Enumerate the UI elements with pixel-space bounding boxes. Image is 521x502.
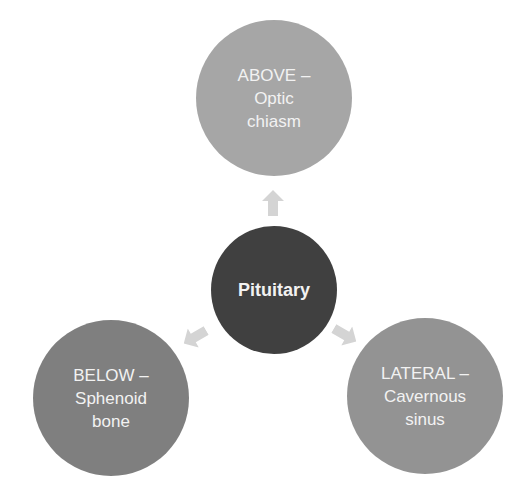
node-lateral-line-1: LATERAL – <box>381 362 469 385</box>
node-above-label: ABOVE – Optic chiasm <box>238 64 311 133</box>
node-lateral-line-2: Cavernous <box>381 385 469 408</box>
node-below-label: BELOW – Sphenoid bone <box>73 364 149 433</box>
arrow-down-left-icon <box>178 321 212 353</box>
node-lateral-line-3: sinus <box>381 408 469 431</box>
node-above-line-1: ABOVE – <box>238 64 311 87</box>
node-below-line-1: BELOW – <box>73 364 149 387</box>
arrow-down-right-icon <box>328 319 362 351</box>
node-below-line-3: bone <box>73 410 149 433</box>
node-below-line-2: Sphenoid <box>73 387 149 410</box>
node-lateral-label: LATERAL – Cavernous sinus <box>381 362 469 431</box>
center-node-label: Pituitary <box>238 279 310 302</box>
arrow-up-icon <box>262 190 284 216</box>
center-node-pituitary: Pituitary <box>211 226 337 354</box>
node-above: ABOVE – Optic chiasm <box>196 20 352 176</box>
node-below: BELOW – Sphenoid bone <box>33 320 189 476</box>
node-lateral: LATERAL – Cavernous sinus <box>347 318 503 474</box>
node-above-line-2: Optic <box>238 87 311 110</box>
node-above-line-3: chiasm <box>238 110 311 133</box>
